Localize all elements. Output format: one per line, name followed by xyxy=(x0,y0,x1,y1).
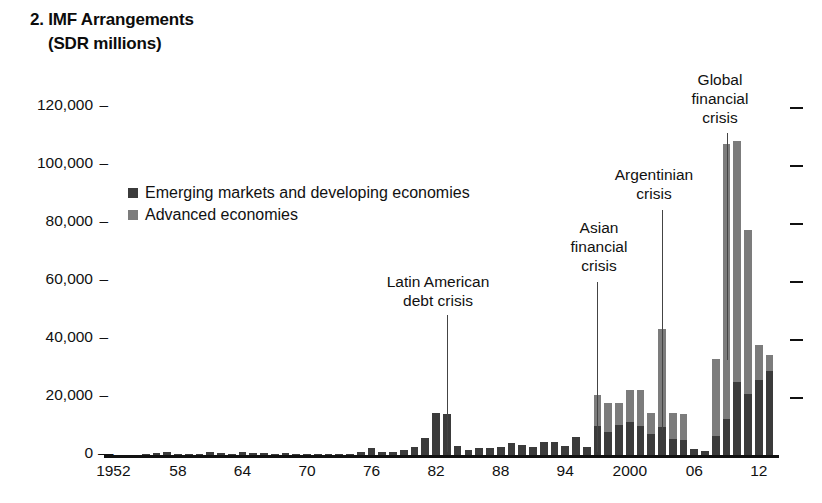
annotation-argentinian-crisis: Argentiniancrisis xyxy=(600,165,708,203)
bar-segment-emerging xyxy=(615,425,623,455)
annotation-leader-line xyxy=(727,133,728,360)
bar-segment-advanced xyxy=(680,414,688,440)
bar-segment-emerging xyxy=(755,380,763,456)
bar-segment-emerging xyxy=(432,413,440,455)
annotation-text-line: Argentinian xyxy=(600,165,708,184)
bar-segment-emerging xyxy=(475,448,483,455)
y-axis-tick-label: 100,000– xyxy=(12,154,108,172)
y-axis-right-tick xyxy=(790,397,803,399)
bar-segment-emerging xyxy=(658,427,666,455)
bar-segment-emerging xyxy=(647,434,655,455)
y-axis-tick-label: 120,000– xyxy=(12,96,108,114)
bar-segment-emerging xyxy=(669,439,677,455)
annotation-global-financial-crisis: Globalfinancialcrisis xyxy=(672,70,768,127)
bar-segment-emerging xyxy=(680,440,688,455)
bar-segment-emerging xyxy=(572,437,580,455)
annotation-text-line: financial xyxy=(555,237,643,256)
y-axis-right-tick xyxy=(790,339,803,341)
bar-segment-advanced xyxy=(669,413,677,439)
annotation-text-line: Asian xyxy=(555,218,643,237)
bar-segment-emerging xyxy=(518,445,526,455)
x-axis-tick-label: 1952 xyxy=(96,462,130,480)
y-axis-right-tick xyxy=(790,223,803,225)
bar-segment-emerging xyxy=(723,419,731,455)
bar-segment-emerging xyxy=(411,447,419,455)
legend-item-eme: Emerging markets and developing economie… xyxy=(128,183,470,203)
bar-segment-emerging xyxy=(712,436,720,455)
x-axis-tick-label: 70 xyxy=(298,462,315,480)
x-axis-tick-label: 94 xyxy=(557,462,574,480)
bar-segment-advanced xyxy=(755,345,763,380)
bar-segment-advanced xyxy=(647,413,655,434)
x-axis-tick-label: 76 xyxy=(363,462,380,480)
annotation-leader-line xyxy=(447,315,448,452)
y-axis-right-tick xyxy=(790,165,803,167)
bar-segment-emerging xyxy=(454,446,462,455)
annotation-text-line: financial xyxy=(672,89,768,108)
annotation-text-line: debt crisis xyxy=(368,291,508,310)
legend-label-adv: Advanced economies xyxy=(145,205,298,225)
bar-segment-emerging xyxy=(766,371,774,455)
legend-item-adv: Advanced economies xyxy=(128,205,470,225)
imf-arrangements-chart: 2. IMF Arrangements (SDR millions) 0—20,… xyxy=(0,0,822,503)
y-axis-right-tick xyxy=(790,281,803,283)
x-axis-tick-label: 64 xyxy=(234,462,251,480)
x-axis-tick-label: 12 xyxy=(750,462,767,480)
bar-segment-advanced xyxy=(637,390,645,426)
bar-segment-emerging xyxy=(497,447,505,455)
annotation-asian-financial-crisis: Asianfinancialcrisis xyxy=(555,218,643,275)
bar-segment-emerging xyxy=(508,443,516,455)
bar-segment-emerging xyxy=(551,442,559,455)
x-axis-tick-label: 88 xyxy=(492,462,509,480)
bar-segment-emerging xyxy=(604,432,612,455)
bar-segment-emerging xyxy=(744,394,752,455)
annotation-text-line: Global xyxy=(672,70,768,89)
bar-segment-advanced xyxy=(766,355,774,371)
y-axis-tick-label: 40,000– xyxy=(12,328,108,346)
annotation-leader-line xyxy=(662,210,663,430)
legend-swatch-icon-adv xyxy=(128,210,138,220)
legend-swatch-icon-eme xyxy=(128,188,138,198)
annotation-text-line: crisis xyxy=(600,184,708,203)
y-axis-right-tick xyxy=(790,107,803,109)
bar-segment-emerging xyxy=(486,448,494,455)
bar-segment-emerging xyxy=(421,438,429,455)
bar-segment-emerging xyxy=(368,448,376,455)
bar-segment-advanced xyxy=(626,390,634,422)
y-axis-tick-label: 0— xyxy=(12,444,108,462)
y-axis-right-ticks xyxy=(790,0,810,503)
annotation-text-line: Latin American xyxy=(368,272,508,291)
x-axis-tick-label: 58 xyxy=(169,462,186,480)
annotation-leader-line xyxy=(597,282,598,452)
bar-segment-advanced xyxy=(604,403,612,432)
annotation-text-line: crisis xyxy=(555,256,643,275)
bar-segment-advanced xyxy=(733,141,741,382)
x-axis-tick-label: 06 xyxy=(686,462,703,480)
bar-segment-emerging xyxy=(626,422,634,455)
y-axis: 0—20,000–40,000–60,000–80,000–100,000–12… xyxy=(0,0,108,503)
bar-segment-emerging xyxy=(637,426,645,455)
bar-segment-emerging xyxy=(561,446,569,455)
bar-segment-emerging xyxy=(733,382,741,455)
y-axis-tick-label: 20,000– xyxy=(12,386,108,404)
bar-segment-advanced xyxy=(615,403,623,425)
x-axis: 19525864707682889420000612 xyxy=(0,462,822,492)
bar-segment-emerging xyxy=(583,447,591,455)
annotation-latin-american-debt-crisis: Latin Americandebt crisis xyxy=(368,272,508,310)
x-axis-line xyxy=(104,455,779,458)
annotation-text-line: crisis xyxy=(672,108,768,127)
x-axis-tick-label: 82 xyxy=(427,462,444,480)
y-axis-tick-label: 80,000– xyxy=(12,212,108,230)
y-axis-tick-label: 60,000– xyxy=(12,270,108,288)
bar-segment-emerging xyxy=(540,442,548,455)
chart-legend: Emerging markets and developing economie… xyxy=(128,183,470,227)
bar-segment-advanced xyxy=(744,230,752,394)
x-axis-tick-label: 2000 xyxy=(613,462,647,480)
bar-segment-emerging xyxy=(529,447,537,455)
legend-label-eme: Emerging markets and developing economie… xyxy=(145,183,470,203)
bar-segment-advanced xyxy=(712,359,720,436)
